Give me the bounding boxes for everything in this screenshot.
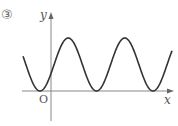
origin-label: O (39, 93, 48, 106)
graph: y x O (0, 0, 178, 126)
x-axis-label: x (164, 93, 171, 107)
wave-curve (23, 38, 172, 91)
y-axis-label: y (39, 8, 47, 22)
y-axis-arrow-icon (49, 12, 54, 19)
